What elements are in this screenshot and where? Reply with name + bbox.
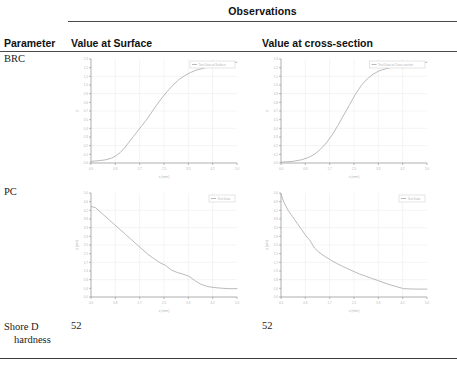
rule-table-bottom — [0, 358, 457, 359]
group-header-observations: Observations — [68, 5, 457, 17]
row-label-shore-d-hardness: Shore D hardness — [4, 320, 51, 346]
svg-text:2.5: 2.5 — [162, 301, 167, 305]
svg-text:0.8: 0.8 — [303, 167, 308, 171]
cell-shore-d-cross-section: 52 — [262, 320, 273, 331]
column-header-value-at-surface: Value at Surface — [71, 37, 152, 49]
svg-text:4.2: 4.2 — [211, 167, 216, 171]
svg-text:0.2: 0.2 — [274, 144, 279, 148]
svg-text:2.5: 2.5 — [352, 301, 357, 305]
svg-text:5.0: 5.0 — [84, 191, 89, 195]
svg-text:1.2: 1.2 — [274, 66, 279, 70]
column-header-value-at-cross-section: Value at cross-section — [262, 37, 373, 49]
chart-brc-cross-section: 0.00.81.72.53.34.25.00.00.10.20.30.40.50… — [264, 54, 431, 179]
svg-text:3.3: 3.3 — [274, 226, 279, 230]
svg-text:0.8: 0.8 — [274, 278, 279, 282]
svg-text:0.8: 0.8 — [113, 167, 118, 171]
svg-text:Test Data at Surface: Test Data at Surface — [199, 63, 227, 67]
svg-text:0.4: 0.4 — [274, 287, 279, 291]
svg-text:0.0: 0.0 — [274, 295, 279, 299]
svg-text:5.0: 5.0 — [235, 167, 240, 171]
svg-text:0.5: 0.5 — [84, 118, 89, 122]
svg-text:0.9: 0.9 — [274, 92, 279, 96]
rule-under-group-header — [68, 21, 457, 22]
svg-text:y: y — [265, 110, 269, 112]
svg-text:5.0: 5.0 — [274, 191, 279, 195]
svg-text:1.7: 1.7 — [328, 167, 333, 171]
svg-text:0.0: 0.0 — [89, 167, 94, 171]
svg-text:x (mm): x (mm) — [349, 309, 360, 313]
svg-text:1.7: 1.7 — [138, 167, 143, 171]
svg-text:1.3: 1.3 — [274, 269, 279, 273]
row-label-shore-d-line1: Shore D — [4, 321, 39, 332]
svg-text:2.5: 2.5 — [352, 167, 357, 171]
svg-text:5.0: 5.0 — [425, 301, 430, 305]
svg-text:0.1: 0.1 — [84, 153, 89, 157]
svg-text:0.0: 0.0 — [89, 301, 94, 305]
svg-text:3.3: 3.3 — [186, 167, 191, 171]
svg-text:3.8: 3.8 — [84, 217, 89, 221]
svg-text:0.8: 0.8 — [303, 301, 308, 305]
svg-text:x (mm): x (mm) — [159, 175, 170, 179]
cell-shore-d-surface: 52 — [71, 320, 82, 331]
svg-text:4.2: 4.2 — [84, 209, 89, 213]
svg-text:Test Data: Test Data — [218, 197, 231, 201]
svg-text:y (µm): y (µm) — [75, 240, 79, 250]
svg-text:2.9: 2.9 — [84, 235, 89, 239]
svg-text:3.3: 3.3 — [376, 167, 381, 171]
svg-text:0.3: 0.3 — [274, 135, 279, 139]
svg-text:1.1: 1.1 — [84, 75, 89, 79]
svg-text:4.6: 4.6 — [274, 200, 279, 204]
svg-text:4.6: 4.6 — [84, 200, 89, 204]
svg-text:0.2: 0.2 — [84, 144, 89, 148]
svg-text:0.9: 0.9 — [84, 92, 89, 96]
svg-text:Test Data: Test Data — [408, 197, 421, 201]
svg-text:1.0: 1.0 — [274, 83, 279, 87]
svg-text:x (mm): x (mm) — [159, 309, 170, 313]
svg-text:5.0: 5.0 — [425, 167, 430, 171]
svg-text:x (mm): x (mm) — [349, 175, 360, 179]
svg-text:0.4: 0.4 — [84, 127, 89, 131]
svg-text:y (µm): y (µm) — [265, 240, 269, 250]
svg-text:1.3: 1.3 — [84, 57, 89, 61]
svg-text:1.0: 1.0 — [84, 83, 89, 87]
svg-text:1.7: 1.7 — [274, 261, 279, 265]
svg-text:0.4: 0.4 — [84, 287, 89, 291]
svg-text:0.8: 0.8 — [274, 101, 279, 105]
svg-text:2.5: 2.5 — [274, 243, 279, 247]
svg-text:2.5: 2.5 — [84, 243, 89, 247]
svg-text:0.0: 0.0 — [274, 161, 279, 165]
svg-text:2.1: 2.1 — [84, 252, 89, 256]
svg-text:4.2: 4.2 — [211, 301, 216, 305]
chart-pc-cross-section-svg: 0.00.81.72.53.34.25.00.00.40.81.31.72.12… — [264, 188, 431, 313]
svg-text:2.5: 2.5 — [162, 167, 167, 171]
svg-text:4.2: 4.2 — [274, 209, 279, 213]
svg-text:3.3: 3.3 — [84, 226, 89, 230]
svg-text:1.3: 1.3 — [274, 57, 279, 61]
svg-text:y: y — [75, 110, 79, 112]
chart-pc-surface: 0.00.81.72.53.34.25.00.00.40.81.31.72.12… — [74, 188, 241, 313]
svg-text:0.1: 0.1 — [274, 153, 279, 157]
row-label-brc: BRC — [4, 53, 25, 64]
svg-text:4.2: 4.2 — [401, 167, 406, 171]
svg-text:2.9: 2.9 — [274, 235, 279, 239]
svg-text:0.3: 0.3 — [84, 135, 89, 139]
svg-text:1.7: 1.7 — [328, 301, 333, 305]
svg-text:0.0: 0.0 — [84, 161, 89, 165]
chart-pc-cross-section: 0.00.81.72.53.34.25.00.00.40.81.31.72.12… — [264, 188, 431, 313]
svg-text:3.3: 3.3 — [376, 301, 381, 305]
chart-brc-surface: 0.00.81.72.53.34.25.00.00.10.20.30.40.50… — [74, 54, 241, 179]
svg-text:0.5: 0.5 — [274, 118, 279, 122]
column-header-parameter: Parameter — [4, 37, 55, 49]
svg-text:0.0: 0.0 — [279, 301, 284, 305]
observations-table: Observations Parameter Value at Surface … — [0, 0, 457, 370]
svg-text:4.2: 4.2 — [401, 301, 406, 305]
svg-text:1.7: 1.7 — [84, 261, 89, 265]
svg-text:1.2: 1.2 — [84, 66, 89, 70]
row-label-pc: PC — [4, 186, 17, 197]
svg-text:0.7: 0.7 — [84, 109, 89, 113]
svg-text:1.1: 1.1 — [274, 75, 279, 79]
svg-text:5.0: 5.0 — [235, 301, 240, 305]
chart-brc-cross-section-svg: 0.00.81.72.53.34.25.00.00.10.20.30.40.50… — [264, 54, 431, 179]
svg-text:0.8: 0.8 — [84, 278, 89, 282]
svg-text:3.8: 3.8 — [274, 217, 279, 221]
